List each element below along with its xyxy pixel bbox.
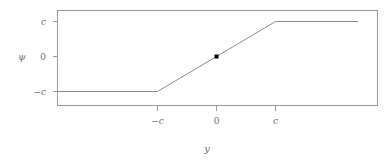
y-tick-label-neg-c: −c xyxy=(33,87,46,97)
origin-point-marker xyxy=(215,55,219,59)
psi-function-plot: c 0 −c ψ −c 0 c y xyxy=(0,0,389,162)
x-tick-label-neg-c: −c xyxy=(151,116,164,126)
x-axis-ticks xyxy=(158,106,276,111)
x-tick-label-c: c xyxy=(273,116,278,126)
y-axis-title: ψ xyxy=(18,51,26,62)
x-axis-title: y xyxy=(203,143,210,154)
y-tick-label-0: 0 xyxy=(40,52,46,62)
figure-container: c 0 −c ψ −c 0 c y xyxy=(0,0,389,162)
y-tick-label-c: c xyxy=(41,17,46,27)
x-tick-label-0: 0 xyxy=(214,116,220,126)
psi-curve-line xyxy=(57,22,358,92)
y-axis-ticks xyxy=(53,22,58,92)
